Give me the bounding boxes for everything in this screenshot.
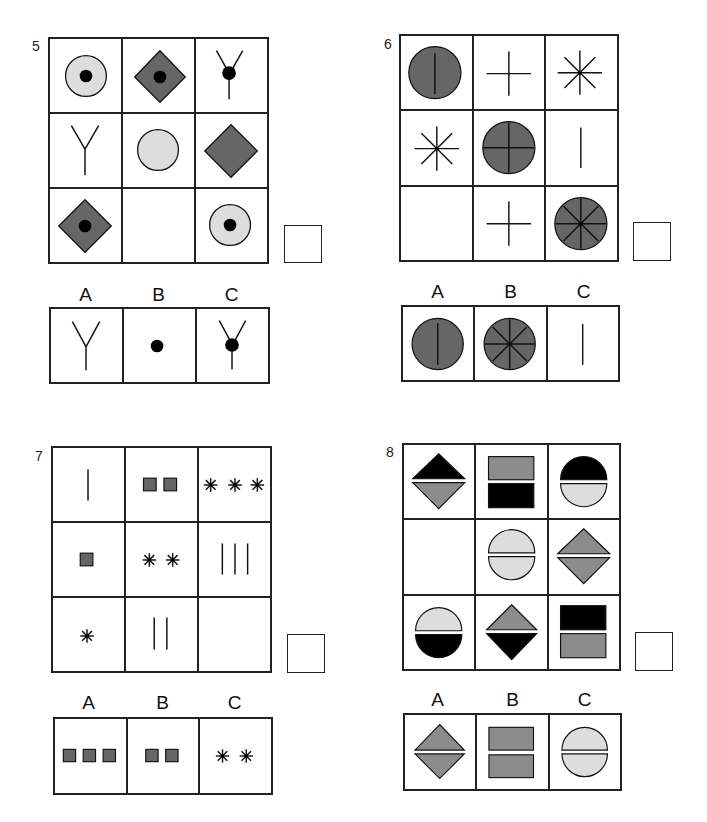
y-fork-with-dot-icon xyxy=(196,39,267,112)
cell-gray-rect-over-black-rect xyxy=(475,444,547,519)
stacked-rects-icon xyxy=(549,596,619,669)
vertical-line-icon xyxy=(548,307,618,380)
option-label: C xyxy=(548,689,621,711)
eight-point-star-icon xyxy=(401,111,472,184)
cell-dark-diamond-with-dot xyxy=(49,188,122,263)
gray-squares-icon xyxy=(128,719,199,793)
gray-squares-icon xyxy=(126,448,197,521)
puzzle-8-options xyxy=(403,713,622,791)
stacked-rects-icon xyxy=(477,715,547,789)
cell-1-gray-square xyxy=(52,522,125,597)
option-label: C xyxy=(198,692,271,714)
puzzle-8-grid xyxy=(402,443,621,671)
option-b[interactable] xyxy=(127,718,200,794)
option-a[interactable] xyxy=(50,308,123,383)
cell-y-fork xyxy=(49,113,122,188)
y-fork-icon xyxy=(50,114,121,187)
cell-empty-missing xyxy=(198,597,271,672)
cell-black-semicircle-over-light-semicircle xyxy=(548,444,620,519)
cell-black-rect-over-gray-rect xyxy=(548,595,620,670)
split-circle-icon xyxy=(476,520,546,593)
cell-2-gray-squares xyxy=(125,447,198,522)
vertical-line-icon xyxy=(53,448,124,521)
plus-icon xyxy=(474,36,545,109)
puzzle-7-grid xyxy=(51,446,272,673)
cell-eight-point-star xyxy=(545,35,618,110)
cell-gray-triangle-over-gray-triangle xyxy=(548,519,620,594)
cell-light-semicircle-over-light-semicircle xyxy=(475,519,547,594)
option-label: C xyxy=(195,284,268,306)
dark-circle-vertical-line-icon xyxy=(401,36,472,109)
option-c[interactable] xyxy=(549,714,621,790)
split-diamond-icon xyxy=(405,715,475,789)
cell-light-circle-with-dot xyxy=(195,188,268,263)
option-label: C xyxy=(547,281,620,303)
cell-3-asterisks xyxy=(198,447,271,522)
cell-y-fork-with-dot xyxy=(195,38,268,113)
asterisks-icon xyxy=(126,523,197,596)
split-diamond-icon xyxy=(404,445,474,518)
cell-plus xyxy=(473,35,546,110)
dark-diamond-icon xyxy=(196,114,267,187)
vertical-lines-icon xyxy=(199,523,270,596)
puzzle-number: 8 xyxy=(386,444,394,460)
cell-dark-diamond-with-dot xyxy=(122,38,195,113)
option-c[interactable] xyxy=(196,308,269,383)
stacked-rects-icon xyxy=(476,445,546,518)
puzzle-number: 5 xyxy=(32,38,40,54)
dark-circle-vertical-line-icon xyxy=(403,307,473,380)
cell-empty-missing xyxy=(122,188,195,263)
light-circle-icon xyxy=(123,114,194,187)
cell-light-circle xyxy=(122,113,195,188)
cell-eight-point-star xyxy=(400,110,473,185)
cell-dark-circle-plus xyxy=(473,110,546,185)
option-label: A xyxy=(49,284,122,306)
cell-gray-triangle-over-black-triangle xyxy=(475,595,547,670)
asterisks-icon xyxy=(200,719,271,793)
y-fork-icon xyxy=(51,309,122,382)
option-label: A xyxy=(52,692,125,714)
gray-square-icon xyxy=(53,523,124,596)
option-b[interactable] xyxy=(476,714,548,790)
answer-box[interactable] xyxy=(284,225,322,263)
option-b[interactable] xyxy=(123,308,196,383)
cell-dark-circle-vertical-line xyxy=(400,35,473,110)
option-a[interactable] xyxy=(402,306,474,381)
option-c[interactable] xyxy=(199,718,272,794)
cell-empty-missing xyxy=(400,186,473,261)
vertical-line-icon xyxy=(546,111,617,184)
dark-diamond-with-dot-icon xyxy=(50,189,121,262)
cell-3-vertical-lines xyxy=(198,522,271,597)
asterisk-icon xyxy=(53,598,124,671)
cell-light-semicircle-over-black-semicircle xyxy=(403,595,475,670)
option-a[interactable] xyxy=(54,718,127,794)
dark-circle-eight-point-star-icon xyxy=(546,187,617,260)
light-circle-with-dot-icon xyxy=(196,189,267,262)
cell-plus xyxy=(473,186,546,261)
puzzle-5-grid xyxy=(48,37,269,264)
option-c[interactable] xyxy=(547,306,619,381)
split-circle-icon xyxy=(549,445,619,518)
cell-1-asterisk xyxy=(52,597,125,672)
answer-box[interactable] xyxy=(635,632,673,671)
puzzle-6-options xyxy=(401,305,620,382)
option-label: B xyxy=(474,281,547,303)
option-label: B xyxy=(122,284,195,306)
option-a[interactable] xyxy=(404,714,476,790)
y-fork-with-dot-icon xyxy=(197,309,268,382)
puzzle-7-options xyxy=(53,717,273,795)
cell-vertical-line xyxy=(545,110,618,185)
answer-box[interactable] xyxy=(633,222,671,261)
cell-empty-missing xyxy=(403,519,475,594)
answer-box[interactable] xyxy=(287,634,325,673)
cell-dark-circle-eight-point-star xyxy=(545,186,618,261)
split-diamond-icon xyxy=(549,520,619,593)
cell-1-vertical-line xyxy=(52,447,125,522)
cell-black-triangle-over-gray-triangle xyxy=(403,444,475,519)
puzzle-5-options xyxy=(49,307,270,384)
option-label: B xyxy=(476,689,549,711)
cell-2-asterisks xyxy=(125,522,198,597)
option-b[interactable] xyxy=(474,306,546,381)
option-label: A xyxy=(401,281,474,303)
option-label: B xyxy=(126,692,199,714)
